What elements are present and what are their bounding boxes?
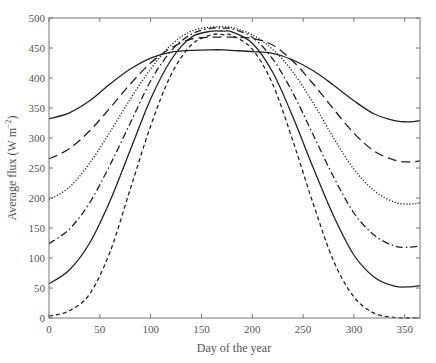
x-tick-label: 200 <box>244 323 261 335</box>
y-tick-label: 250 <box>29 162 46 174</box>
y-axis-label: Average flux (W m−2) <box>4 115 19 220</box>
line-chart: 050100150200250300350 050100150200250300… <box>0 0 436 363</box>
plot-lines <box>49 27 420 318</box>
x-tick-label: 0 <box>46 323 52 335</box>
y-tick-label: 400 <box>29 72 46 84</box>
y-tick-label: 50 <box>34 282 46 294</box>
y-tick-label: 150 <box>29 222 46 234</box>
x-tick-label: 300 <box>346 323 363 335</box>
y-tick-label: 0 <box>40 312 46 324</box>
y-tick-label: 500 <box>29 12 46 24</box>
x-tick-label: 100 <box>142 323 159 335</box>
x-tick-label: 50 <box>94 323 106 335</box>
series-line-curve-5-solid-bottom <box>49 31 420 287</box>
y-tick-label: 300 <box>29 132 46 144</box>
y-axis: 050100150200250300350400450500 <box>29 12 421 324</box>
y-tick-label: 200 <box>29 192 46 204</box>
series-line-curve-1-solid-top <box>49 50 420 122</box>
x-tick-label: 350 <box>397 323 414 335</box>
x-tick-label: 150 <box>193 323 210 335</box>
y-tick-label: 100 <box>29 252 46 264</box>
y-tick-label: 450 <box>29 42 46 54</box>
series-line-curve-3-dotted <box>49 27 420 204</box>
x-axis-label: Day of the year <box>197 341 271 355</box>
plot-frame <box>49 18 420 318</box>
y-tick-label: 350 <box>29 102 46 114</box>
x-tick-label: 250 <box>295 323 312 335</box>
x-axis: 050100150200250300350 <box>46 18 413 335</box>
series-line-curve-2-long-dash <box>49 37 420 162</box>
